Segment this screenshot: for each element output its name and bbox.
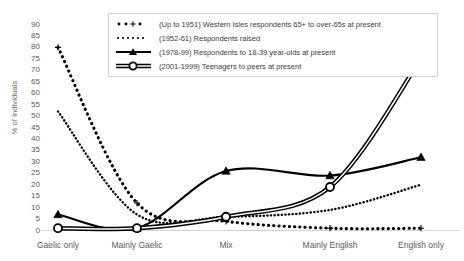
x-tick-label: Mainly English [303, 240, 358, 250]
x-axis-tick-labels: Gaelic onlyMainly GaelicMixMainly Englis… [0, 240, 464, 256]
legend-item-label: (Up to 1951) Western Isles respondents 6… [159, 20, 381, 29]
legend-item[interactable]: (1952-61) Respondents raised [115, 31, 433, 45]
legend-item[interactable]: (1978-99) Respondents to 18-39 year-olds… [115, 45, 433, 59]
legend-symbol-dotted-dots-icon [115, 31, 159, 45]
legend-symbol-solid-triangle-icon [115, 45, 159, 59]
chart-container: % of individuals 90858075706560555045403… [0, 0, 464, 261]
legend-item[interactable]: (Up to 1951) Western Isles respondents 6… [115, 17, 433, 31]
marker-circle [222, 213, 230, 221]
series-line [58, 157, 421, 230]
x-tick-label: Mix [219, 240, 232, 250]
x-tick-label: Gaelic only [37, 240, 79, 250]
series-line-inner [58, 59, 421, 229]
legend-item[interactable]: (2001-1999) Teenagers to peers at presen… [115, 59, 433, 73]
marker-circle [54, 224, 62, 232]
legend-item-label: (1952-61) Respondents raised [159, 34, 260, 43]
marker-circle [133, 224, 141, 232]
legend-symbol-dotted-plus-icon [115, 17, 159, 31]
x-tick-label: English only [398, 240, 444, 250]
chart-legend: (Up to 1951) Western Isles respondents 6… [108, 13, 438, 77]
legend-symbol-double-circle-icon [115, 59, 159, 73]
legend-item-label: (1978-99) Respondents to 18-39 year-olds… [159, 48, 335, 57]
series-3 [54, 55, 425, 232]
marker-triangle [54, 210, 62, 217]
x-tick-label: Mainly Gaelic [111, 240, 162, 250]
marker-circle [326, 183, 334, 191]
marker-plus [55, 44, 61, 50]
series-2 [54, 153, 425, 231]
legend-item-label: (2001-1999) Teenagers to peers at presen… [159, 62, 301, 71]
